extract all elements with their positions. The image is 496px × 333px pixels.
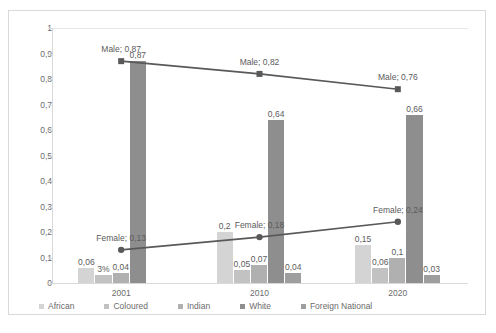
line-point-label: Female; 0,18 [235, 220, 285, 230]
line-marker [118, 58, 124, 64]
line-marker [118, 247, 124, 253]
x-axis-line [52, 283, 468, 284]
y-axis-tick-label: 0,4 [18, 176, 52, 186]
line-marker [256, 234, 262, 240]
y-axis-tick-label: 0,9 [18, 49, 52, 59]
line-point-label: Female; 0,24 [373, 205, 423, 215]
y-axis-tick-label: 0,3 [18, 202, 52, 212]
y-axis-tick-label: 0,7 [18, 100, 52, 110]
y-axis-tick-label: 0,8 [18, 74, 52, 84]
legend-swatch-icon [240, 304, 245, 309]
legend-item[interactable]: Indian [178, 301, 210, 311]
chart-container: 00,10,20,30,40,50,60,70,80,91 0,063%0,04… [8, 10, 486, 315]
line-marker [257, 71, 263, 77]
legend-swatch-icon [104, 304, 109, 309]
y-axis-tick-label: 0,1 [18, 253, 52, 263]
y-axis-tick-label: 1 [18, 23, 52, 33]
x-axis-tick-label: 2010 [250, 288, 269, 298]
line-point-label: Male; 0,76 [378, 72, 418, 82]
x-axis-tick-label: 2001 [112, 288, 131, 298]
y-axis-tick-label: 0,5 [18, 151, 52, 161]
legend-swatch-icon [178, 304, 183, 309]
plot-area: 0,063%0,040,870,20,050,070,640,040,150,0… [52, 28, 467, 283]
legend-item[interactable]: African [39, 301, 74, 311]
legend-label: White [249, 301, 271, 311]
chart-legend: AfricanColouredIndianWhiteForeign Nation… [9, 298, 487, 314]
y-axis-tick-mark [48, 283, 52, 284]
legend-item[interactable]: Foreign National [301, 301, 372, 311]
y-axis-tick-label: 0,2 [18, 227, 52, 237]
legend-item[interactable]: White [240, 301, 271, 311]
x-axis-tick-label: 2020 [388, 288, 407, 298]
y-axis-tick-label: 0 [18, 278, 52, 288]
line-point-label: Female; 0,13 [96, 233, 146, 243]
legend-label: Foreign National [310, 301, 372, 311]
legend-item[interactable]: Coloured [104, 301, 148, 311]
legend-swatch-icon [39, 304, 44, 309]
line-marker [395, 219, 401, 225]
legend-label: Indian [187, 301, 210, 311]
legend-label: African [48, 301, 74, 311]
y-axis: 00,10,20,30,40,50,60,70,80,91 [9, 11, 52, 301]
y-axis-tick-label: 0,6 [18, 125, 52, 135]
legend-swatch-icon [301, 304, 306, 309]
line-marker [395, 86, 401, 92]
legend-label: Coloured [113, 301, 148, 311]
line-point-label: Male; 0,87 [101, 44, 141, 54]
line-point-label: Male; 0,82 [240, 57, 280, 67]
